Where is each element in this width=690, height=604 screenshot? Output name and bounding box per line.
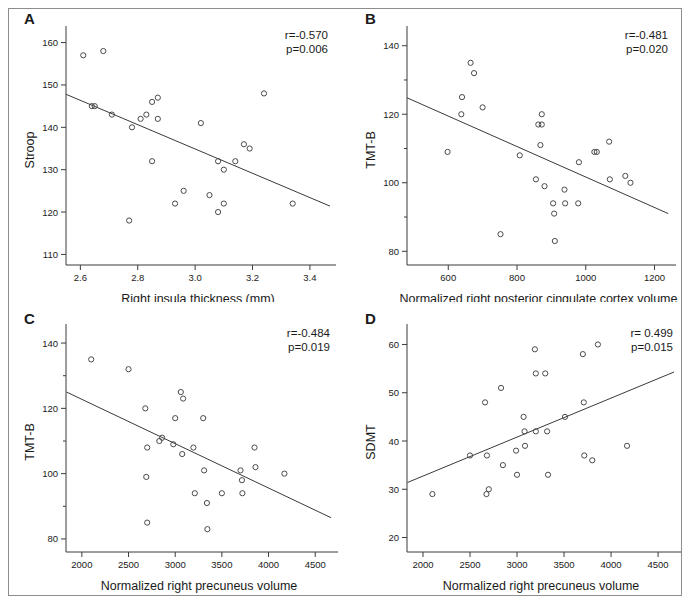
data-point: [580, 352, 585, 357]
data-point: [215, 159, 220, 164]
data-point: [145, 445, 150, 450]
data-point: [282, 471, 287, 476]
data-point: [180, 451, 185, 456]
data-point: [521, 414, 526, 419]
data-point: [261, 91, 266, 96]
y-axis-title: Stroop: [23, 132, 37, 169]
x-tick-label: 3.0: [189, 272, 202, 283]
data-point: [590, 458, 595, 463]
data-point: [459, 95, 464, 100]
data-point: [533, 371, 538, 376]
data-point: [459, 112, 464, 117]
correlation-coefficient-label: r=-0.570: [285, 29, 328, 41]
y-axis-title: TMT-B: [23, 423, 37, 461]
data-point: [624, 443, 629, 448]
data-point: [143, 406, 148, 411]
x-tick-label: 3500: [553, 559, 574, 570]
data-point: [539, 112, 544, 117]
panel-letter: B: [365, 10, 376, 27]
data-point: [552, 211, 557, 216]
x-tick-label: 3500: [211, 559, 232, 570]
y-tick-label: 20: [388, 532, 399, 543]
y-tick-label: 80: [388, 246, 399, 257]
panel-b: B8010012014060080010001200r=-0.481p=0.02…: [345, 0, 690, 302]
y-tick-label: 120: [383, 109, 399, 120]
data-point: [215, 209, 220, 214]
data-point: [247, 146, 252, 151]
data-point: [468, 60, 473, 65]
y-tick-label: 30: [388, 484, 399, 495]
data-point: [532, 347, 537, 352]
panel-c: C80100120140200025003000350040004500r=-0…: [0, 300, 345, 602]
p-value-label: p=0.015: [631, 341, 673, 353]
data-point: [149, 159, 154, 164]
data-point: [430, 491, 435, 496]
data-point: [198, 120, 203, 125]
y-tick-label: 100: [383, 177, 399, 188]
data-point: [201, 416, 206, 421]
x-tick-label: 3000: [506, 559, 527, 570]
data-point: [576, 160, 581, 165]
x-tick-label: 2500: [118, 559, 139, 570]
panel-c-plot: C80100120140200025003000350040004500r=-0…: [0, 300, 345, 602]
data-point: [178, 389, 183, 394]
data-point: [145, 520, 150, 525]
data-point: [127, 218, 132, 223]
data-point: [545, 472, 550, 477]
y-tick-label: 110: [43, 249, 58, 260]
data-point: [545, 429, 550, 434]
data-point: [204, 500, 209, 505]
data-point: [482, 400, 487, 405]
x-tick-label: 800: [509, 272, 525, 283]
x-tick-label: 2500: [459, 559, 480, 570]
data-point: [253, 465, 258, 470]
data-point: [205, 527, 210, 532]
data-point: [522, 443, 527, 448]
data-point: [563, 201, 568, 206]
y-tick-label: 40: [388, 436, 399, 447]
y-axis-title: TMT-B: [364, 131, 378, 169]
y-tick-label: 120: [42, 207, 58, 218]
y-tick-label: 150: [42, 79, 58, 90]
data-point: [149, 99, 154, 104]
x-tick-label: 1000: [575, 272, 596, 283]
y-tick-label: 60: [388, 339, 399, 350]
x-tick-label: 2.8: [131, 272, 144, 283]
panel-a: A1101201301401501602.62.83.03.23.4r=-0.5…: [0, 0, 345, 302]
data-point: [486, 487, 491, 492]
data-point: [445, 149, 450, 154]
data-point: [101, 48, 106, 53]
data-point: [471, 71, 476, 76]
data-point: [562, 187, 567, 192]
x-tick-label: 4000: [600, 559, 621, 570]
correlation-coefficient-label: r=-0.484: [287, 327, 331, 339]
data-point: [126, 367, 131, 372]
x-axis-title: Normalized right precuneus volume: [101, 579, 298, 593]
data-point: [522, 429, 527, 434]
x-tick-label: 3000: [165, 559, 186, 570]
x-tick-label: 4500: [648, 559, 669, 570]
data-point: [514, 472, 519, 477]
data-point: [181, 188, 186, 193]
data-point: [576, 201, 581, 206]
x-tick-label: 4500: [305, 559, 326, 570]
data-point: [173, 416, 178, 421]
data-point: [207, 193, 212, 198]
y-tick-label: 100: [42, 468, 58, 479]
data-point: [290, 201, 295, 206]
panel-letter: C: [24, 310, 35, 327]
data-point: [551, 201, 556, 206]
y-tick-label: 120: [42, 403, 58, 414]
panel-letter: D: [365, 310, 376, 327]
data-point: [172, 201, 177, 206]
data-point: [252, 445, 257, 450]
y-axis-title: SDMT: [364, 424, 378, 460]
panel-a-plot: A1101201301401501602.62.83.03.23.4r=-0.5…: [0, 0, 345, 302]
y-tick-label: 140: [383, 40, 399, 51]
data-point: [498, 385, 503, 390]
data-point: [181, 396, 186, 401]
x-tick-label: 3.2: [246, 272, 259, 283]
x-tick-label: 2000: [412, 559, 433, 570]
data-point: [157, 438, 162, 443]
data-point: [623, 173, 628, 178]
